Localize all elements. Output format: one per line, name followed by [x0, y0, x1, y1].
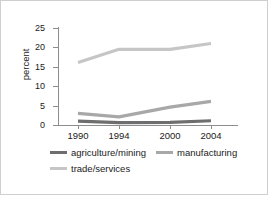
series-line-agriculture-mining: [78, 121, 211, 123]
legend-item-manufacturing[interactable]: manufacturing: [156, 147, 237, 158]
legend-swatch-icon: [50, 167, 67, 170]
legend-swatch-icon: [156, 151, 173, 154]
series-line-manufacturing: [78, 101, 211, 117]
legend-label-trade-services: trade/services: [71, 163, 130, 174]
legend-row-2: trade/services: [50, 160, 262, 176]
legend-row-1: agriculture/mining manufacturing: [50, 144, 262, 160]
chart-figure: percent 25 20 15 10 5 0 1990 1994 2000 2…: [0, 0, 268, 195]
chart-legend: agriculture/mining manufacturing trade/s…: [50, 144, 262, 176]
legend-item-agriculture-mining[interactable]: agriculture/mining: [50, 147, 146, 158]
legend-swatch-icon: [50, 151, 67, 154]
legend-label-agriculture-mining: agriculture/mining: [71, 147, 146, 158]
legend-item-trade-services[interactable]: trade/services: [50, 163, 130, 174]
series-line-trade-services: [78, 44, 211, 63]
legend-label-manufacturing: manufacturing: [177, 147, 237, 158]
